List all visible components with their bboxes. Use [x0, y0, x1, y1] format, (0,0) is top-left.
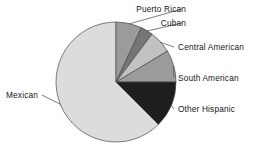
leader-line-other-hispanic: [171, 105, 174, 109]
pie-chart-figure: Mexican Puerto Rican Cuban Central Ameri…: [0, 0, 260, 163]
slice-label-other-hispanic: Other Hispanic: [178, 104, 235, 114]
slice-label-south-american: South American: [178, 73, 239, 83]
slice-label-puerto-rican: Puerto Rican: [136, 4, 186, 14]
slice-label-cuban: Cuban: [161, 18, 186, 28]
slice-label-central-american: Central American: [178, 42, 244, 52]
pie-slices-group: [56, 22, 176, 142]
slice-label-mexican: Mexican: [6, 90, 38, 100]
pie-chart-canvas: Mexican Puerto Rican Cuban Central Ameri…: [0, 0, 260, 163]
